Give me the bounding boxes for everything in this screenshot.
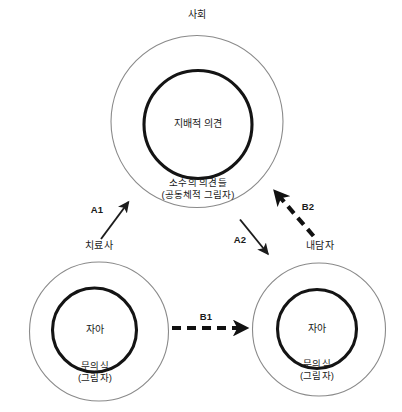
therapist-ring-label-line1: 무의식 xyxy=(59,360,131,371)
therapist-external-label: 치료사 xyxy=(70,240,128,252)
arrow-label-b2: B2 xyxy=(296,201,320,212)
society-ring-label-line2: (공동체적 그림자) xyxy=(132,189,264,200)
arrow-label-a2: A2 xyxy=(228,234,252,245)
society-inner-label: 지배적 의견 xyxy=(148,118,248,130)
therapist-inner-label: 자아 xyxy=(62,324,128,336)
arrow-b2 xyxy=(276,193,314,237)
arrow-label-b1: B1 xyxy=(194,311,218,322)
society-external-label: 사회 xyxy=(167,9,227,21)
society-ring-label-line1: 소수의 의견들 xyxy=(132,177,264,188)
therapist-ring-label-line2: (그림자) xyxy=(59,372,131,383)
arrow-label-a1: A1 xyxy=(85,204,109,215)
client-ring-label-line1: 무의식 xyxy=(281,358,353,369)
client-inner-label: 자아 xyxy=(284,323,350,335)
client-ring-label-line2: (그림자) xyxy=(281,370,353,381)
client-external-label: 내담자 xyxy=(291,240,349,252)
diagram-canvas: 사회 지배적 의견 소수의 의견들 (공동체적 그림자) 치료사 자아 무의식 … xyxy=(0,0,402,412)
diagram-graphics xyxy=(0,0,402,412)
